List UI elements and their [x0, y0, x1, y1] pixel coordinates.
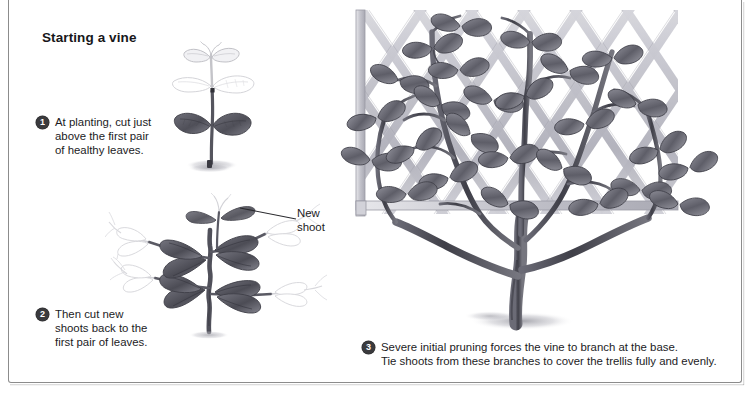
- step-2-number: 2: [36, 308, 49, 321]
- page-title: Starting a vine: [42, 30, 137, 45]
- new-shoot-callout-label: New shoot: [297, 206, 325, 234]
- step-1: 1 At planting, cut just above the first …: [36, 115, 186, 158]
- step-2: 2 Then cut new shoots back to the first …: [36, 307, 186, 350]
- illustration-page: Starting a vine: [0, 0, 755, 398]
- step-3-number: 3: [362, 341, 375, 354]
- page-frame-shadow: [10, 384, 744, 386]
- step-1-number: 1: [36, 116, 49, 129]
- step-2-text: Then cut new shoots back to the first pa…: [55, 307, 147, 350]
- step-1-text: At planting, cut just above the first pa…: [55, 115, 151, 158]
- page-frame-shadow-right: [743, 2, 745, 385]
- step-3-text: Severe initial pruning forces the vine t…: [381, 340, 717, 368]
- step-3: 3 Severe initial pruning forces the vine…: [362, 340, 722, 368]
